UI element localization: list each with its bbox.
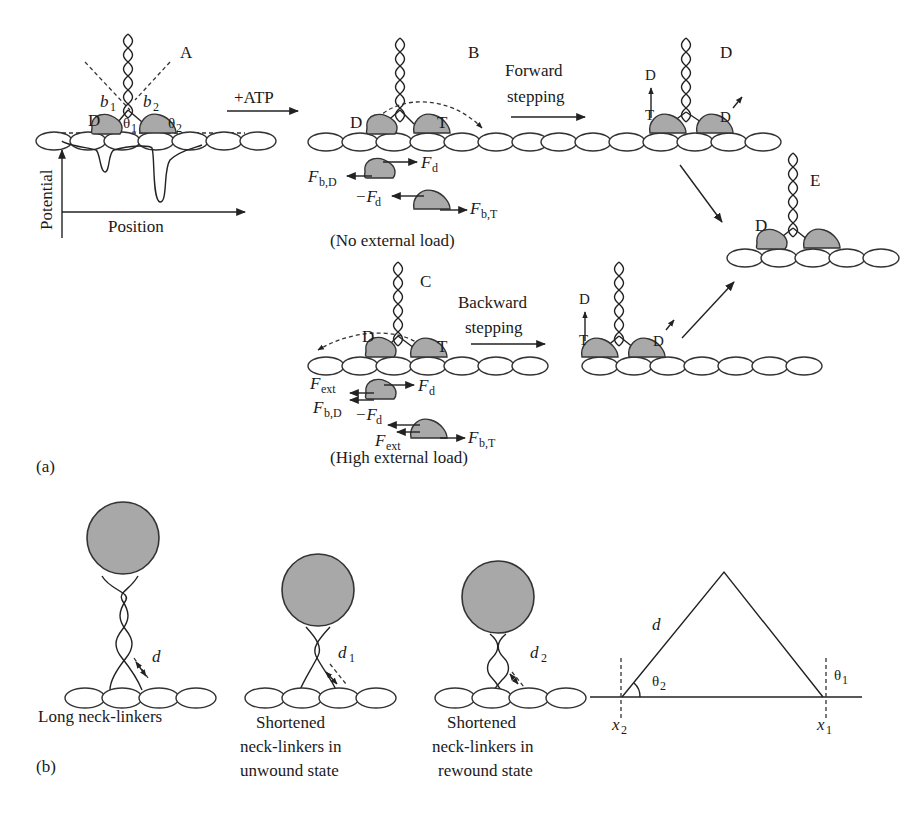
svg-text:T: T xyxy=(645,107,654,123)
svg-text:Backward: Backward xyxy=(458,293,527,312)
svg-text:F: F xyxy=(469,199,481,218)
svg-text:F: F xyxy=(309,374,321,393)
caption-unwound-3: unwound state xyxy=(240,761,339,780)
svg-text:T: T xyxy=(437,113,448,132)
svg-text:1: 1 xyxy=(349,651,355,665)
svg-text:1: 1 xyxy=(842,673,848,687)
svg-text:d: d xyxy=(530,643,539,662)
svg-text:−F: −F xyxy=(355,405,377,424)
svg-text:2: 2 xyxy=(621,723,627,737)
svg-text:2: 2 xyxy=(153,100,159,114)
state-label-d: D xyxy=(720,43,732,62)
svg-text:D: D xyxy=(645,67,656,83)
panel-label-b: (b) xyxy=(36,757,56,776)
svg-text:b,D: b,D xyxy=(324,406,342,420)
svg-text:+ATP: +ATP xyxy=(234,88,274,107)
svg-text:F: F xyxy=(417,376,429,395)
svg-text:T: T xyxy=(579,332,588,348)
svg-text:F: F xyxy=(420,153,432,172)
state-a: A D b 1 b 2 θ 1 θ 2 Potential Position xyxy=(36,34,276,238)
forward-stepping-arrow: Forward stepping xyxy=(505,61,585,117)
svg-text:D: D xyxy=(720,109,731,125)
geometry-diagram: d θ 2 θ 1 x 2 x 1 xyxy=(590,572,862,737)
caption-rewound-2: neck-linkers in xyxy=(432,737,534,756)
caption-unwound-2: neck-linkers in xyxy=(240,737,342,756)
svg-text:D: D xyxy=(579,291,590,307)
svg-text:d: d xyxy=(432,161,438,175)
svg-text:D: D xyxy=(350,113,362,132)
svg-text:d: d xyxy=(429,384,435,398)
svg-text:d: d xyxy=(338,643,347,662)
caption-rewound-1: Shortened xyxy=(447,713,516,732)
svg-text:1: 1 xyxy=(826,723,832,737)
svg-text:D: D xyxy=(362,327,374,346)
svg-text:2: 2 xyxy=(176,121,182,135)
state-e: E D xyxy=(727,153,899,267)
state-label-a: A xyxy=(180,43,193,62)
shortened-unwound: d 1 Shortened neck-linkers in unwound st… xyxy=(240,554,396,780)
head-label: D xyxy=(88,111,100,130)
svg-text:Forward: Forward xyxy=(505,61,563,80)
svg-text:θ: θ xyxy=(123,115,130,131)
state-label-e: E xyxy=(810,171,820,190)
svg-text:stepping: stepping xyxy=(465,318,523,337)
state-d: D D T D xyxy=(541,38,781,222)
shortened-rewound: d 2 Shortened neck-linkers in rewound st… xyxy=(432,561,586,780)
svg-text:1: 1 xyxy=(110,100,116,114)
svg-text:x: x xyxy=(816,715,825,734)
y-axis-label: Potential xyxy=(37,169,56,230)
backward-stepping-arrow: Backward stepping xyxy=(458,293,545,344)
state-backward-result: D T D xyxy=(579,262,822,375)
svg-text:d: d xyxy=(152,647,161,666)
svg-text:θ: θ xyxy=(834,667,841,683)
state-label-b: B xyxy=(468,43,479,62)
svg-text:F: F xyxy=(312,398,324,417)
svg-text:stepping: stepping xyxy=(507,87,565,106)
svg-text:2: 2 xyxy=(660,679,666,693)
svg-text:2: 2 xyxy=(541,651,547,665)
svg-text:D: D xyxy=(755,216,767,235)
x-axis-label: Position xyxy=(108,217,164,236)
svg-text:T: T xyxy=(437,337,448,356)
kinesin-stepping-figure: A D b 1 b 2 θ 1 θ 2 Potential Position +… xyxy=(0,0,901,815)
svg-text:b: b xyxy=(100,92,109,111)
atp-arrow: +ATP xyxy=(227,88,298,111)
svg-text:b,T: b,T xyxy=(481,207,498,221)
svg-text:d: d xyxy=(652,615,661,634)
svg-text:F: F xyxy=(307,167,319,186)
svg-text:1: 1 xyxy=(131,121,137,135)
svg-text:b: b xyxy=(143,92,152,111)
panel-label-a: (a) xyxy=(36,457,55,476)
state-label-c: C xyxy=(420,272,431,291)
svg-text:b,D: b,D xyxy=(319,175,337,189)
svg-text:ext: ext xyxy=(321,382,336,396)
svg-text:D: D xyxy=(653,333,664,349)
svg-text:d: d xyxy=(376,413,382,427)
caption-high-load: (High external load) xyxy=(330,448,468,467)
caption-unwound-1: Shortened xyxy=(256,713,325,732)
svg-text:x: x xyxy=(611,715,620,734)
svg-text:b,T: b,T xyxy=(479,436,496,450)
svg-text:d: d xyxy=(375,195,381,209)
svg-text:θ: θ xyxy=(168,115,175,131)
caption-no-load: (No external load) xyxy=(330,231,455,250)
svg-text:θ: θ xyxy=(652,673,659,689)
caption-long: Long neck-linkers xyxy=(38,707,162,726)
long-neck-linkers: d Long neck-linkers xyxy=(38,502,216,726)
caption-rewound-3: rewound state xyxy=(438,761,533,780)
svg-text:F: F xyxy=(467,428,479,447)
